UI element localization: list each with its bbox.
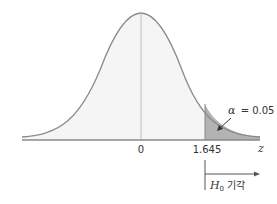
alpha-label: α = 0.05: [228, 104, 274, 117]
axis-variable-label: z: [257, 142, 264, 155]
normal-curve-diagram: 0 1.645 z α = 0.05 H0기각: [0, 0, 277, 204]
rejection-arrow-head-icon: [254, 172, 260, 177]
tick-label-critical: 1.645: [193, 144, 222, 155]
tick-label-0: 0: [138, 144, 144, 155]
rejection-label: H0기각: [209, 179, 245, 193]
